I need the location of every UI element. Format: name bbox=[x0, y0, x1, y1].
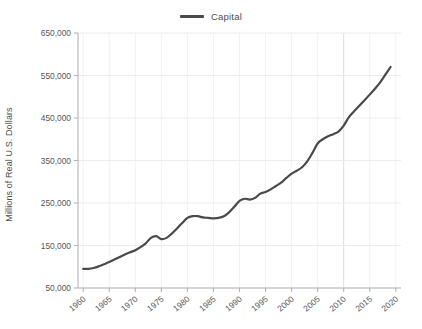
x-tick-label-1990: 1990 bbox=[223, 294, 244, 314]
y-tick-label-450000: 450,000 bbox=[41, 113, 72, 123]
series-group bbox=[83, 67, 390, 269]
y-tick-label-350000: 350,000 bbox=[41, 156, 72, 166]
y-axis-ticks: 50,000150,000250,000350,000450,000550,00… bbox=[41, 28, 78, 293]
x-tick-label-2000: 2000 bbox=[275, 294, 296, 314]
x-tick-label-2015: 2015 bbox=[353, 294, 374, 314]
y-tick-label-650000: 650,000 bbox=[41, 28, 72, 38]
x-tick-label-2020: 2020 bbox=[379, 294, 400, 314]
x-tick-label-1965: 1965 bbox=[93, 294, 114, 314]
x-tick-label-1970: 1970 bbox=[119, 294, 140, 314]
x-tick-label-1975: 1975 bbox=[145, 294, 166, 314]
x-tick-label-1995: 1995 bbox=[249, 294, 270, 314]
y-tick-label-150000: 150,000 bbox=[41, 241, 72, 251]
chart-container: Capital Millions of Real U.S. Dollars 50… bbox=[0, 0, 422, 329]
x-tick-label-1985: 1985 bbox=[197, 294, 218, 314]
y-tick-label-250000: 250,000 bbox=[41, 198, 72, 208]
y-tick-label-550000: 550,000 bbox=[41, 71, 72, 81]
x-tick-label-1980: 1980 bbox=[171, 294, 192, 314]
x-tick-label-2005: 2005 bbox=[301, 294, 322, 314]
plot-area: 50,000150,000250,000350,000450,000550,00… bbox=[0, 0, 422, 329]
x-axis-ticks: 1960196519701975198019851990199520002005… bbox=[67, 288, 401, 314]
x-tick-label-2010: 2010 bbox=[327, 294, 348, 314]
y-tick-label-50000: 50,000 bbox=[45, 283, 71, 293]
series-line-capital bbox=[83, 67, 390, 269]
x-tick-label-1960: 1960 bbox=[67, 294, 88, 314]
